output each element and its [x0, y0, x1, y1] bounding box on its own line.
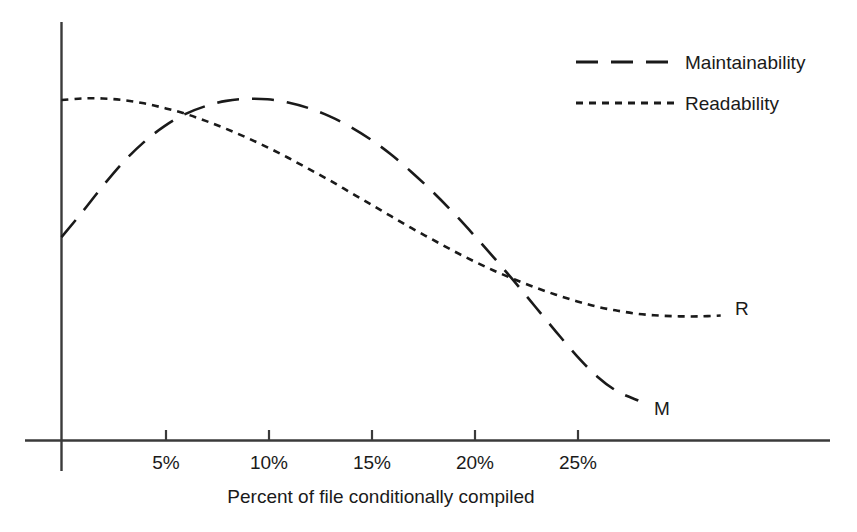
axis-group [25, 22, 830, 471]
x-tick-label-10: 10% [250, 452, 288, 473]
x-tick-label-25: 25% [559, 452, 597, 473]
x-tick-label-5: 5% [152, 452, 180, 473]
series-line-maintainability [62, 99, 639, 401]
legend-label-readability: Readability [685, 93, 779, 114]
x-axis-title: Percent of file conditionally compiled [227, 486, 534, 507]
series-end-label-maintainability: M [654, 398, 670, 419]
chart-container: 5% 10% 15% 20% 25% Percent of file condi… [0, 0, 857, 532]
chart-plot-area: 5% 10% 15% 20% 25% Percent of file condi… [0, 0, 857, 532]
x-tick-label-15: 15% [353, 452, 391, 473]
series-end-label-readability: R [735, 298, 749, 319]
legend: Maintainability Readability [576, 52, 806, 114]
legend-item-maintainability[interactable]: Maintainability [576, 52, 806, 73]
legend-item-readability[interactable]: Readability [576, 93, 779, 114]
legend-label-maintainability: Maintainability [685, 52, 806, 73]
x-tick-label-20: 20% [456, 452, 494, 473]
x-axis-tick-labels: 5% 10% 15% 20% 25% [152, 452, 597, 473]
series-line-readability [62, 98, 721, 316]
